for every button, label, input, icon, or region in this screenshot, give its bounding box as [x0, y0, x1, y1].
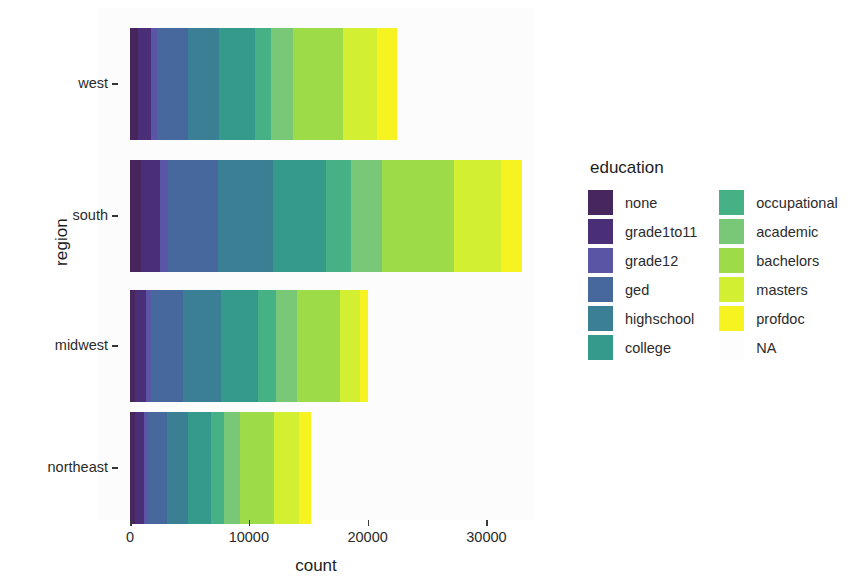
legend-swatch-occupational — [719, 190, 744, 215]
bar-segment-south-highschool — [218, 160, 273, 272]
y-tick-label-text: west — [78, 75, 108, 91]
legend-column-right: occupationalacademicbachelorsmastersprof… — [719, 188, 837, 362]
legend-label-academic: academic — [756, 224, 818, 240]
legend-columns: nonegrade1to11grade12gedhighschoolcolleg… — [588, 188, 864, 362]
bar-segment-midwest-grade1to11 — [135, 290, 146, 402]
x-axis: 0100002000030000 — [97, 520, 535, 560]
bar-segment-northeast-grade1to11 — [135, 412, 145, 524]
bar-segment-northeast-ged — [148, 412, 167, 524]
bar-segment-south-occupational — [326, 160, 351, 272]
bar-segment-south-college — [273, 160, 326, 272]
legend-item-academic: academic — [719, 217, 837, 246]
y-tick-west: west — [0, 75, 118, 91]
legend-swatch-na — [719, 335, 744, 360]
bar-northeast — [130, 412, 311, 524]
x-tick-mark-0 — [130, 520, 132, 526]
bar-segment-west-masters — [343, 28, 377, 140]
y-tick-label-text: northeast — [48, 459, 108, 475]
bar-segment-midwest-ged — [151, 290, 183, 402]
y-tick-northeast: northeast — [0, 459, 118, 475]
bar-segment-south-profdoc — [501, 160, 522, 272]
bar-segment-south-grade1to11 — [141, 160, 160, 272]
y-tick-label-text: south — [73, 207, 108, 223]
bar-segment-northeast-profdoc — [299, 412, 310, 524]
bar-segment-south-ged — [168, 160, 218, 272]
bar-segment-south-none — [130, 160, 141, 272]
legend-swatch-masters — [719, 277, 744, 302]
y-tick-mark — [112, 345, 118, 347]
legend-label-na: NA — [756, 340, 776, 356]
legend-swatch-grade1to11 — [588, 219, 613, 244]
legend: education nonegrade1to11grade12gedhighsc… — [588, 158, 864, 362]
legend-item-ged: ged — [588, 275, 697, 304]
bar-segment-northeast-academic — [224, 412, 239, 524]
legend-item-grade1to11: grade1to11 — [588, 217, 697, 246]
x-axis-title: count — [97, 556, 535, 576]
y-tick-midwest: midwest — [0, 337, 118, 353]
bar-west — [130, 28, 397, 140]
legend-label-masters: masters — [756, 282, 808, 298]
legend-item-highschool: highschool — [588, 304, 697, 333]
x-tick-mark-20000 — [368, 520, 370, 526]
x-tick-label-0: 0 — [126, 529, 134, 545]
x-tick-mark-30000 — [486, 520, 488, 526]
legend-item-masters: masters — [719, 275, 837, 304]
x-tick-label-10000: 10000 — [229, 529, 269, 545]
bar-segment-south-masters — [454, 160, 500, 272]
bar-segment-northeast-college — [188, 412, 212, 524]
legend-label-occupational: occupational — [756, 195, 837, 211]
legend-label-ged: ged — [625, 282, 649, 298]
bar-segment-midwest-occupational — [258, 290, 276, 402]
legend-swatch-highschool — [588, 306, 613, 331]
bar-segment-midwest-profdoc — [360, 290, 368, 402]
legend-label-profdoc: profdoc — [756, 311, 804, 327]
legend-swatch-college — [588, 335, 613, 360]
legend-item-profdoc: profdoc — [719, 304, 837, 333]
legend-label-grade12: grade12 — [625, 253, 678, 269]
bar-segment-west-grade1to11 — [138, 28, 151, 140]
y-tick-label-text: midwest — [55, 337, 108, 353]
bar-segment-west-bachelors — [293, 28, 343, 140]
bar-segment-midwest-masters — [340, 290, 360, 402]
bar-south — [130, 160, 522, 272]
y-tick-mark — [112, 83, 118, 85]
bar-segment-west-none — [130, 28, 138, 140]
legend-swatch-grade12 — [588, 248, 613, 273]
legend-item-college: college — [588, 333, 697, 362]
legend-swatch-academic — [719, 219, 744, 244]
bar-segment-south-grade12 — [160, 160, 168, 272]
bar-segment-northeast-bachelors — [240, 412, 274, 524]
legend-swatch-profdoc — [719, 306, 744, 331]
x-tick-label-20000: 20000 — [347, 529, 387, 545]
bar-segment-midwest-highschool — [183, 290, 221, 402]
bar-segment-midwest-academic — [276, 290, 297, 402]
bar-segment-west-profdoc — [377, 28, 397, 140]
bar-segment-northeast-occupational — [211, 412, 224, 524]
y-tick-mark — [112, 215, 118, 217]
bar-segment-northeast-highschool — [167, 412, 187, 524]
legend-label-none: none — [625, 195, 657, 211]
x-tick-mark-10000 — [249, 520, 251, 526]
legend-label-highschool: highschool — [625, 311, 694, 327]
bar-segment-midwest-bachelors — [297, 290, 340, 402]
y-axis-title: region — [52, 182, 72, 302]
bar-segment-west-highschool — [188, 28, 219, 140]
legend-swatch-bachelors — [719, 248, 744, 273]
bar-midwest — [130, 290, 368, 402]
bar-segment-midwest-college — [221, 290, 258, 402]
legend-title: education — [590, 158, 864, 178]
bar-segment-northeast-masters — [274, 412, 299, 524]
legend-label-college: college — [625, 340, 671, 356]
y-tick-mark — [112, 467, 118, 469]
legend-item-na: NA — [719, 333, 837, 362]
plot-panel — [97, 8, 535, 520]
legend-swatch-ged — [588, 277, 613, 302]
x-tick-label-30000: 30000 — [466, 529, 506, 545]
legend-item-occupational: occupational — [719, 188, 837, 217]
bar-segment-west-ged — [157, 28, 188, 140]
bar-segment-west-occupational — [255, 28, 272, 140]
bar-segment-west-college — [219, 28, 255, 140]
legend-item-bachelors: bachelors — [719, 246, 837, 275]
chart-figure: westsouthmidwestnortheast region 0100002… — [0, 0, 868, 584]
legend-column-left: nonegrade1to11grade12gedhighschoolcolleg… — [588, 188, 697, 362]
